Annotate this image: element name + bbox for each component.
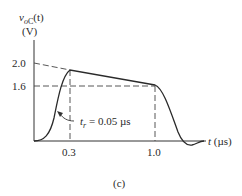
y-axis-label: voC(t) bbox=[19, 11, 44, 25]
y-label-arg: (t) bbox=[33, 11, 43, 23]
x-tick-1-0: 1.0 bbox=[147, 146, 161, 158]
annotation-sub: r bbox=[83, 121, 86, 130]
y-tick-1-6: 1.6 bbox=[12, 80, 26, 92]
x-axis-label: t (µs) bbox=[208, 135, 232, 147]
waveform-curve bbox=[34, 70, 204, 145]
x-tick-0-3: 0.3 bbox=[62, 146, 76, 158]
annotation-arrow bbox=[60, 114, 74, 121]
annotation-value: = 0.05 µs bbox=[86, 115, 130, 127]
x-label-var: t bbox=[208, 135, 211, 147]
x-label-unit: (µs) bbox=[214, 135, 232, 147]
y-tick-2-0: 2.0 bbox=[12, 57, 26, 69]
y-unit-label: (V) bbox=[22, 25, 37, 37]
rise-time-annotation: tr = 0.05 µs bbox=[80, 115, 131, 129]
figure-caption: (c) bbox=[113, 177, 125, 189]
